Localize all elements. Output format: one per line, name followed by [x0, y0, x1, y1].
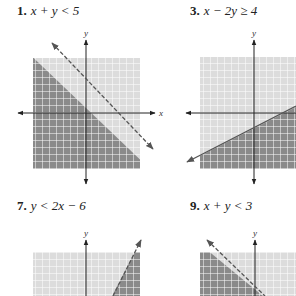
- grid: [200, 252, 296, 296]
- graph-7: y: [33, 228, 160, 296]
- x-axis-label: x: [158, 108, 163, 118]
- graph-1: x y: [18, 28, 163, 184]
- y-axis-label: y: [83, 28, 88, 38]
- graph-3: y: [186, 28, 296, 184]
- y-axis-label: y: [252, 228, 257, 238]
- graph-9: y: [195, 228, 296, 296]
- y-axis-label: y: [251, 28, 256, 38]
- y-axis-label: y: [83, 228, 88, 238]
